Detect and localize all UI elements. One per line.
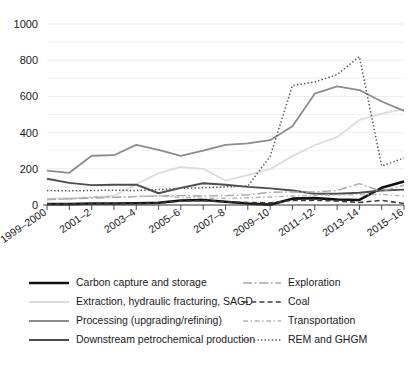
legend-label: Transportation (288, 314, 355, 326)
y-tick-label: 1000 (14, 18, 38, 30)
legend-label: REM and GHGM (288, 333, 367, 345)
y-tick-label: 200 (20, 163, 38, 175)
legend-label: Carbon capture and storage (76, 276, 207, 288)
legend-label: Processing (upgrading/refining) (76, 314, 222, 326)
line-chart: 02004006008001000 1999–20002001–22003–42… (0, 0, 418, 368)
legend-label: Coal (288, 295, 310, 307)
legend-label: Downstream petrochemical production (76, 333, 255, 345)
y-tick-label: 600 (20, 90, 38, 102)
legend-label: Exploration (288, 276, 341, 288)
legend-label: Extraction, hydraulic fracturing, SAGD (76, 295, 253, 307)
y-tick-label: 400 (20, 127, 38, 139)
chart-figure: 02004006008001000 1999–20002001–22003–42… (0, 0, 418, 368)
y-tick-label: 800 (20, 54, 38, 66)
